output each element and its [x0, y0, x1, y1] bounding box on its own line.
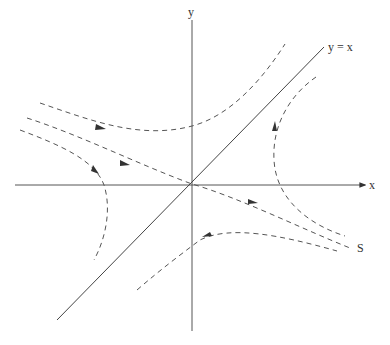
phase-portrait: y x y = x S: [0, 0, 390, 345]
diagonal-line: [57, 47, 324, 320]
arrow-right: [272, 121, 277, 131]
separatrix-label: S: [357, 241, 364, 255]
trajectory-left: [20, 130, 107, 260]
diagonal-label: y = x: [328, 40, 353, 54]
arrow-upper: [95, 124, 106, 130]
separatrix-S: [27, 118, 350, 248]
trajectory-upper: [40, 44, 285, 131]
arrow-separatrix-left: [120, 160, 130, 166]
x-axis-label: x: [369, 178, 375, 192]
trajectory-right: [274, 77, 345, 236]
arrow-left: [91, 165, 99, 174]
y-axis-label: y: [188, 5, 194, 19]
trajectory-lower: [137, 233, 337, 290]
arrow-separatrix-right: [248, 199, 258, 204]
